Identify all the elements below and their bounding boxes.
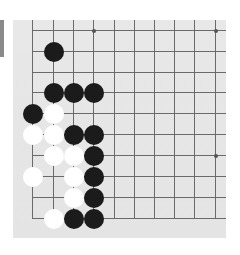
grid-horizontal-line bbox=[32, 176, 226, 177]
black-stone bbox=[64, 83, 84, 103]
black-stone bbox=[44, 42, 64, 62]
black-stone bbox=[84, 125, 104, 145]
white-stone bbox=[64, 188, 84, 208]
white-stone bbox=[23, 167, 43, 187]
black-stone bbox=[84, 83, 104, 103]
grid-vertical-line bbox=[215, 20, 216, 219]
grid-vertical-line bbox=[194, 20, 195, 219]
grid-vertical-line bbox=[174, 20, 175, 219]
star-point bbox=[92, 29, 96, 33]
black-stone bbox=[84, 209, 104, 229]
black-stone bbox=[64, 125, 84, 145]
black-stone bbox=[84, 167, 104, 187]
black-stone bbox=[84, 146, 104, 166]
grid-vertical-line bbox=[154, 20, 155, 219]
grid-horizontal-line bbox=[32, 197, 226, 198]
white-stone bbox=[44, 209, 64, 229]
white-stone bbox=[44, 146, 64, 166]
grid-vertical-line bbox=[134, 20, 135, 219]
white-stone bbox=[64, 167, 84, 187]
grid-vertical-line bbox=[114, 20, 115, 219]
black-stone bbox=[84, 188, 104, 208]
black-stone bbox=[44, 83, 64, 103]
white-stone bbox=[64, 146, 84, 166]
black-stone bbox=[23, 104, 43, 124]
white-stone bbox=[44, 104, 64, 124]
black-stone bbox=[64, 209, 84, 229]
star-point bbox=[214, 29, 218, 33]
grid-horizontal-line bbox=[32, 72, 226, 73]
star-point bbox=[214, 154, 218, 158]
white-stone bbox=[44, 125, 64, 145]
side-bar-indicator bbox=[0, 20, 4, 57]
grid-horizontal-line bbox=[32, 30, 226, 31]
go-board[interactable] bbox=[13, 20, 226, 238]
white-stone bbox=[23, 125, 43, 145]
